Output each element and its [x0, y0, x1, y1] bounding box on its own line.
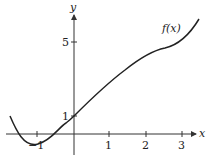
function-curve	[10, 19, 199, 145]
x-tick-label-1: 1	[105, 139, 112, 152]
y-axis-label: y	[69, 1, 77, 14]
x-tick-label-2: 2	[142, 139, 149, 152]
x-tick-label-3: 3	[178, 139, 185, 152]
function-graph: −1 1 2 3 1 5 x y f(x)	[0, 0, 206, 155]
graph-canvas: −1 1 2 3 1 5 x y f(x)	[0, 0, 206, 155]
function-label: f(x)	[161, 22, 181, 35]
x-tick-label-neg1: −1	[28, 139, 44, 152]
y-tick-label-5: 5	[62, 36, 69, 49]
x-axis-label: x	[199, 127, 206, 140]
